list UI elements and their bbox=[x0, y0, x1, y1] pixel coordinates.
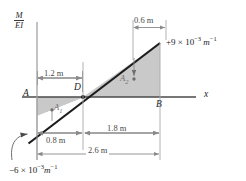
value-top-right-base: 10 bbox=[185, 37, 194, 47]
point-label-D: D bbox=[74, 83, 81, 93]
times-icon-2: × bbox=[21, 165, 26, 175]
point-label-A: A bbox=[23, 89, 29, 99]
centroid-A2-dot bbox=[132, 77, 135, 80]
dim-label-1_2: 1.2 m bbox=[44, 69, 63, 78]
value-bottom-left-unit-exp: −1 bbox=[51, 163, 58, 170]
value-top-right-unit-exp: −1 bbox=[210, 35, 217, 42]
figure-canvas: M EI x A D B A1 A2 +9 × 10−3 m−1 −6 × 10… bbox=[0, 0, 246, 181]
area-label-A1-sub: 1 bbox=[59, 107, 62, 114]
dim-label-2_6: 2.6 m bbox=[86, 146, 109, 155]
dim-label-1_8: 1.8 m bbox=[107, 124, 126, 133]
dim-label-0_6: 0.6 m bbox=[134, 16, 153, 25]
point-label-B: B bbox=[156, 100, 162, 110]
area-label-A2: A2 bbox=[120, 74, 128, 85]
value-top-right: +9 × 10−3 m−1 bbox=[166, 36, 217, 47]
area-label-A2-sub: 2 bbox=[125, 78, 128, 85]
value-bottom-left-base: 10 bbox=[28, 165, 37, 175]
y-axis-denominator: EI bbox=[14, 20, 24, 30]
times-icon: × bbox=[178, 37, 183, 47]
y-axis-label: M EI bbox=[14, 11, 24, 30]
value-bottom-left-mantissa: 6 bbox=[14, 165, 19, 175]
dim-label-0_8: 0.8 m bbox=[46, 136, 65, 145]
leader-curve-minus6 bbox=[12, 134, 28, 160]
area-label-A1: A1 bbox=[54, 103, 62, 114]
value-bottom-left: −6 × 10−3m−1 bbox=[9, 164, 58, 175]
value-top-right-exp: −3 bbox=[194, 35, 201, 42]
y-axis-numerator: M bbox=[14, 11, 24, 20]
x-axis-label: x bbox=[204, 90, 208, 100]
value-top-right-mantissa: 9 bbox=[171, 37, 176, 47]
diagram-svg bbox=[0, 0, 246, 181]
